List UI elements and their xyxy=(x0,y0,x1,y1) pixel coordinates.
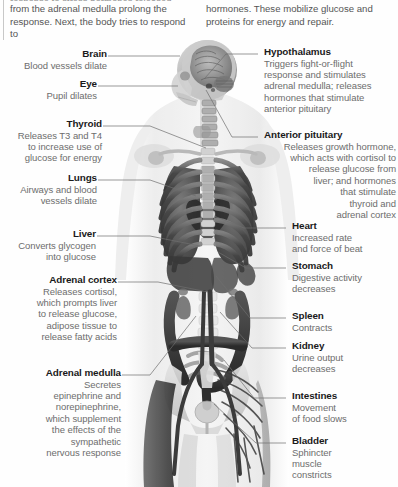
callout-title-kidney: Kidney xyxy=(292,340,396,352)
diagram-page: response to stress hormones released fro… xyxy=(0,0,398,487)
callout-title-eye: Eye xyxy=(2,78,97,90)
callout-body-spleen: Contracts xyxy=(292,322,396,333)
callout-title-stomach: Stomach xyxy=(292,260,396,272)
callout-hypothalamus: Hypothalamus Triggers fight-or-flight re… xyxy=(264,46,396,115)
callout-body-kidney: Urine output decreases xyxy=(292,352,396,375)
intro-paragraph-right: hormones. These mobilize glucose and pro… xyxy=(206,3,391,28)
callout-body-hypothalamus: Triggers fight-or-flight response and st… xyxy=(264,58,396,115)
callout-body-stomach: Digestive activity decreases xyxy=(292,272,396,295)
callout-body-anterior-pituitary: Releases growth hormone, which acts with… xyxy=(264,141,396,221)
callout-brain: Brain Blood vessels dilate xyxy=(2,48,107,71)
callout-title-bladder: Bladder xyxy=(292,435,396,447)
callout-title-lungs: Lungs xyxy=(2,172,97,184)
callout-title-liver: Liver xyxy=(2,228,96,240)
callout-title-hypothalamus: Hypothalamus xyxy=(264,46,396,58)
callout-title-brain: Brain xyxy=(2,48,107,60)
callout-bladder: Bladder Sphincter muscle constricts xyxy=(292,435,396,481)
callout-body-adrenal-cortex: Releases cortisol, which prompts liver t… xyxy=(2,286,117,343)
callout-kidney: Kidney Urine output decreases xyxy=(292,340,396,374)
callout-heart: Heart Increased rate and force of beat xyxy=(292,220,396,254)
callout-intestines: Intestines Movement of food slows xyxy=(292,390,396,424)
callout-title-anterior-pituitary: Anterior pituitary xyxy=(264,129,396,141)
callout-body-brain: Blood vessels dilate xyxy=(2,60,107,71)
callout-anterior-pituitary: Anterior pituitary Releases growth hormo… xyxy=(264,129,396,220)
callout-body-eye: Pupil dilates xyxy=(2,90,97,101)
callout-title-adrenal-medulla: Adrenal medulla xyxy=(2,367,121,379)
callout-body-lungs: Airways and blood vessels dilate xyxy=(2,184,97,207)
callout-body-heart: Increased rate and force of beat xyxy=(292,232,396,255)
callout-title-heart: Heart xyxy=(292,220,396,232)
callout-title-adrenal-cortex: Adrenal cortex xyxy=(2,274,117,286)
callout-body-liver: Converts glycogen into glucose xyxy=(2,240,96,263)
callout-title-spleen: Spleen xyxy=(292,310,396,322)
callout-thyroid: Thyroid Releases T3 and T4 to increase u… xyxy=(2,118,102,164)
callout-adrenal-cortex: Adrenal cortex Releases cortisol, which … xyxy=(2,274,117,343)
callout-body-intestines: Movement of food slows xyxy=(292,402,396,425)
callout-liver: Liver Converts glycogen into glucose xyxy=(2,228,96,262)
callout-spleen: Spleen Contracts xyxy=(292,310,396,333)
callout-title-intestines: Intestines xyxy=(292,390,396,402)
callout-eye: Eye Pupil dilates xyxy=(2,78,97,101)
callout-body-thyroid: Releases T3 and T4 to increase use of gl… xyxy=(2,130,102,164)
callout-title-thyroid: Thyroid xyxy=(2,118,102,130)
callout-body-bladder: Sphincter muscle constricts xyxy=(292,447,396,481)
callout-adrenal-medulla: Adrenal medulla Secretes epinephrine and… xyxy=(2,367,121,458)
callout-body-adrenal-medulla: Secretes epinephrine and norepinephrine,… xyxy=(2,379,121,459)
callout-lungs: Lungs Airways and blood vessels dilate xyxy=(2,172,97,206)
clipped-text-line: response to stress hormones released xyxy=(10,0,210,1)
left-margin-rule xyxy=(3,0,4,40)
callout-stomach: Stomach Digestive activity decreases xyxy=(292,260,396,294)
